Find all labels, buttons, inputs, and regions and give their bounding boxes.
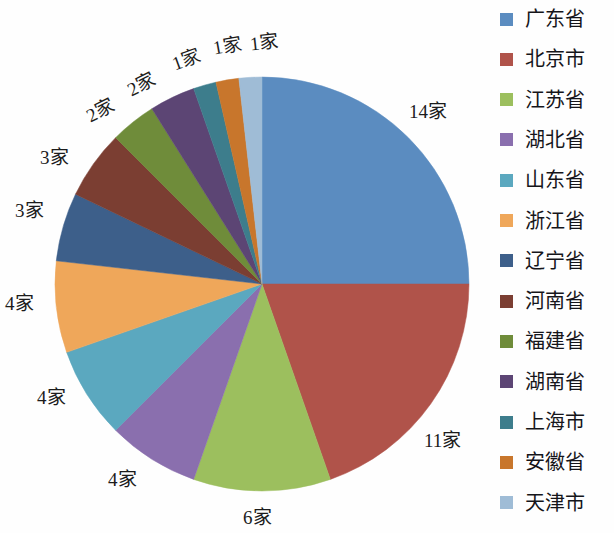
legend-label: 北京市 bbox=[525, 49, 585, 69]
legend-item-湖北省[interactable]: 湖北省 bbox=[500, 129, 585, 151]
legend-item-福建省[interactable]: 福建省 bbox=[500, 330, 585, 352]
pie-chart-svg bbox=[0, 0, 495, 533]
legend-label: 河南省 bbox=[525, 291, 585, 311]
legend-label: 山东省 bbox=[525, 170, 585, 190]
slice-label-anhui: 1家 bbox=[212, 34, 243, 58]
legend-item-湖南省[interactable]: 湖南省 bbox=[500, 371, 585, 393]
legend-item-天津市[interactable]: 天津市 bbox=[500, 492, 585, 514]
legend-label: 湖南省 bbox=[525, 372, 585, 392]
slice-label-guangdong: 14家 bbox=[409, 102, 447, 121]
legend: 广东省北京市江苏省湖北省山东省浙江省辽宁省河南省福建省湖南省上海市安徽省天津市 bbox=[500, 0, 614, 533]
legend-item-浙江省[interactable]: 浙江省 bbox=[500, 210, 585, 232]
slice-label-zhejiang: 4家 bbox=[5, 294, 34, 313]
legend-swatch-icon bbox=[500, 416, 513, 429]
slice-label-shandong: 4家 bbox=[37, 388, 66, 407]
slice-label-henan: 3家 bbox=[40, 148, 69, 167]
slice-label-tianjin: 1家 bbox=[249, 32, 279, 54]
legend-swatch-icon bbox=[500, 335, 513, 348]
slice-label-beijing: 11家 bbox=[424, 431, 461, 450]
legend-item-上海市[interactable]: 上海市 bbox=[500, 411, 585, 433]
slice-label-jiangsu: 6家 bbox=[243, 508, 272, 527]
legend-label: 江苏省 bbox=[525, 90, 585, 110]
legend-swatch-icon bbox=[500, 456, 513, 469]
legend-item-辽宁省[interactable]: 辽宁省 bbox=[500, 250, 585, 272]
legend-swatch-icon bbox=[500, 214, 513, 227]
legend-item-广东省[interactable]: 广东省 bbox=[500, 8, 585, 30]
legend-swatch-icon bbox=[500, 13, 513, 26]
legend-item-安徽省[interactable]: 安徽省 bbox=[500, 451, 585, 473]
legend-swatch-icon bbox=[500, 53, 513, 66]
legend-label: 浙江省 bbox=[525, 211, 585, 231]
legend-swatch-icon bbox=[500, 174, 513, 187]
legend-swatch-icon bbox=[500, 496, 513, 509]
legend-swatch-icon bbox=[500, 254, 513, 267]
legend-item-山东省[interactable]: 山东省 bbox=[500, 169, 585, 191]
legend-item-江苏省[interactable]: 江苏省 bbox=[500, 89, 585, 111]
legend-label: 天津市 bbox=[525, 493, 585, 513]
legend-label: 辽宁省 bbox=[525, 251, 585, 271]
legend-label: 湖北省 bbox=[525, 130, 585, 150]
legend-label: 广东省 bbox=[525, 9, 585, 29]
legend-swatch-icon bbox=[500, 93, 513, 106]
pie-chart-page: 14家 11家 6家 4家 4家 4家 3家 3家 2家 2家 1家 1家 1家… bbox=[0, 0, 614, 533]
legend-label: 安徽省 bbox=[525, 452, 585, 472]
legend-swatch-icon bbox=[500, 295, 513, 308]
legend-item-北京市[interactable]: 北京市 bbox=[500, 48, 585, 70]
legend-swatch-icon bbox=[500, 133, 513, 146]
legend-swatch-icon bbox=[500, 375, 513, 388]
legend-label: 上海市 bbox=[525, 412, 585, 432]
legend-item-河南省[interactable]: 河南省 bbox=[500, 290, 585, 312]
pie-chart-area: 14家 11家 6家 4家 4家 4家 3家 3家 2家 2家 1家 1家 1家 bbox=[0, 0, 495, 533]
legend-label: 福建省 bbox=[525, 331, 585, 351]
slice-label-liaoning: 3家 bbox=[15, 201, 44, 220]
slice-label-hubei: 4家 bbox=[108, 470, 137, 489]
